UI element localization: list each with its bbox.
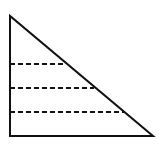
right-triangle (10, 16, 153, 136)
triangle-diagram (0, 0, 159, 146)
dashed-section-lines (10, 64, 124, 112)
